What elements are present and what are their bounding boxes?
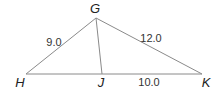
- length-label-GK: 12.0: [140, 32, 161, 44]
- vertex-label-H: H: [15, 75, 25, 90]
- segment-GK: [96, 18, 202, 74]
- vertex-label-G: G: [90, 1, 100, 16]
- vertex-label-J: J: [97, 75, 105, 90]
- vertex-label-K: K: [202, 75, 212, 90]
- length-label-GH: 9.0: [46, 36, 61, 48]
- diagram-svg: G H J K 9.0 12.0 10.0: [0, 0, 220, 91]
- triangle-diagram: G H J K 9.0 12.0 10.0: [0, 0, 220, 91]
- length-label-JK: 10.0: [138, 76, 159, 88]
- segment-GJ: [96, 18, 102, 74]
